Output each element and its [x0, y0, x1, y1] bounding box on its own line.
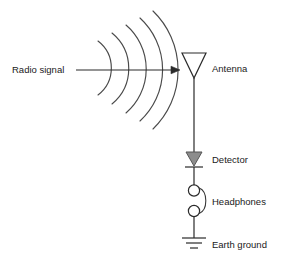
- antenna-icon: [182, 53, 206, 78]
- radio-signal-arrow-group: [76, 66, 180, 74]
- detector-icon: [186, 152, 202, 166]
- label-detector: Detector: [212, 154, 248, 165]
- detector-symbol-group: [185, 152, 203, 167]
- radio-signal-arrow-head: [171, 66, 180, 74]
- radio-receiver-diagram: Radio signal Antenna Detector Headphones…: [0, 0, 288, 265]
- headphone-band-icon: [199, 188, 206, 213]
- headphone-earpiece-bottom-icon: [188, 205, 199, 216]
- label-antenna: Antenna: [212, 63, 248, 74]
- earth-ground-symbol-group: [182, 238, 206, 248]
- wavefront-arc-1: [98, 41, 111, 95]
- headphones-symbol-group: [188, 185, 205, 217]
- label-headphones: Headphones: [212, 196, 266, 207]
- wavefront-arc-2: [112, 33, 129, 104]
- antenna-symbol-group: [182, 53, 206, 78]
- label-earth-ground: Earth ground: [212, 239, 267, 250]
- headphone-earpiece-top-icon: [188, 185, 199, 196]
- diagram-canvas: Radio signal Antenna Detector Headphones…: [0, 0, 288, 265]
- label-radio-signal: Radio signal: [12, 64, 64, 75]
